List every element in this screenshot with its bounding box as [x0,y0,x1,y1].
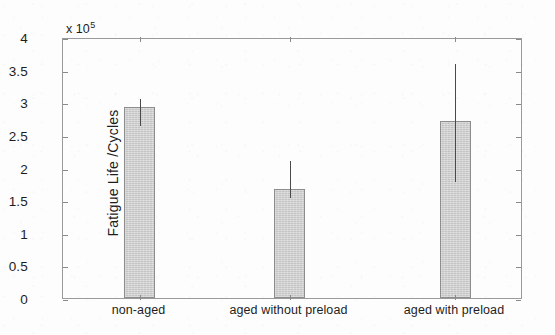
y-axis-tick-label: 2.5 [9,128,28,143]
y-axis-tick [63,267,68,268]
y-axis-tick-right [516,72,521,73]
y-axis-tick-label: 0 [20,292,28,307]
bar-non-aged [124,107,155,298]
y-axis-tick [63,202,68,203]
y-axis-title: Fatigue Life /Cycles [105,63,121,283]
y-axis-tick-right [516,104,521,105]
x-axis-tick [455,295,456,300]
x-axis-category-label: aged with preload [404,303,504,317]
y-axis-tick-label: 3 [20,96,28,111]
x-axis-tick [290,295,291,300]
y-axis-tick-label: 3.5 [9,63,28,78]
exponent-power: 5 [90,20,95,30]
y-axis-tick-right [516,39,521,40]
x-axis-tick [140,295,141,300]
y-axis-tick-right [516,137,521,138]
y-axis-tick-right [516,235,521,236]
y-axis-tick-right [516,267,521,268]
y-axis-tick-label: 0.5 [9,259,28,274]
y-axis-tick-label: 2 [20,161,28,176]
y-axis-tick [63,170,68,171]
x-axis-tick-top [140,37,141,42]
y-axis-tick [63,137,68,138]
y-axis-tick-label: 1.5 [9,194,28,209]
y-axis-tick-right [516,202,521,203]
plot-area: Fatigue Life /Cycles [62,38,522,299]
exponent-prefix: x 10 [66,22,90,36]
error-bar-non-aged [140,99,141,126]
y-axis-tick [63,300,68,301]
y-axis-tick [63,235,68,236]
error-bar-aged-without-preload [290,161,291,198]
x-axis-category-label: non-aged [112,303,166,317]
y-axis-tick-right [516,170,521,171]
y-axis-tick [63,104,68,105]
figure-canvas: x 105 Fatigue Life /Cycles 00.511.522.53… [0,0,555,335]
x-axis-category-label: aged without preload [229,303,347,317]
y-axis-tick-right [516,300,521,301]
y-axis-tick-label: 1 [20,226,28,241]
y-axis-tick [63,39,68,40]
x-axis-tick-top [455,37,456,42]
y-axis-tick-label: 4 [20,31,28,46]
y-axis-exponent-label: x 105 [66,20,95,36]
error-bar-aged-with-preload [455,64,456,182]
y-axis-tick [63,72,68,73]
bar-aged-without-preload [274,189,305,298]
x-axis-tick-top [290,37,291,42]
